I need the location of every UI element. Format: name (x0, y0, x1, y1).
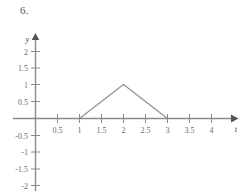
x-tick-label: 0.5 (53, 126, 63, 135)
x-tick-label: 1.5 (97, 126, 107, 135)
y-axis-name-label: y (25, 34, 30, 44)
data-series-triangular-pulse (80, 85, 168, 119)
y-axis-arrowhead (32, 33, 40, 40)
x-tick-label: 3 (166, 126, 170, 135)
figure-container: 6. (0, 0, 245, 195)
x-tick-label: 2.5 (141, 126, 151, 135)
y-tick-label: -2 (21, 182, 28, 191)
x-tick-labels: 0.5 1 1.5 2 2.5 3 3.5 4 (53, 126, 214, 135)
y-tick-label: -0.5 (15, 132, 28, 141)
y-tick-label: 0.5 (18, 98, 28, 107)
x-tick-label: 4 (210, 126, 214, 135)
x-axis-arrowhead (231, 115, 239, 123)
y-tick-label: 2 (24, 48, 28, 57)
y-tick-label: -1 (21, 148, 28, 157)
x-tick-label: 3.5 (185, 126, 195, 135)
y-tick-label: -1.5 (15, 165, 28, 174)
y-tick-label: 1 (24, 81, 28, 90)
x-axis-name-label: t (235, 124, 238, 134)
y-tick-label: 1.5 (18, 64, 28, 73)
x-tick-label: 1 (78, 126, 82, 135)
x-tick-label: 2 (122, 126, 126, 135)
triangular-pulse-plot: 0.5 1 1.5 2 2.5 3 3.5 4 2 1.5 1 0.5 -0.5… (0, 0, 245, 195)
